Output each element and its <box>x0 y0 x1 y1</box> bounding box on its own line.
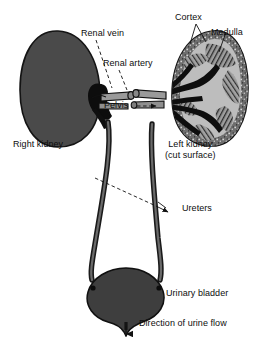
right-kidney <box>20 31 112 147</box>
label-left-kidney-line2: (cut surface) <box>165 150 216 160</box>
renal-vessels-left <box>131 90 166 109</box>
anatomy-illustration <box>0 0 261 337</box>
label-renal-artery: Renal artery <box>103 58 153 69</box>
label-left-kidney: Left kidney (cut surface) <box>165 139 216 160</box>
label-medulla: Medulla <box>211 27 243 38</box>
kidney-internal-structures <box>140 31 248 146</box>
label-cortex: Cortex <box>175 12 202 23</box>
urinary-system-diagram: Renal vein Renal artery Pelvis Cortex Me… <box>0 0 261 337</box>
ureter-left <box>151 124 161 280</box>
label-renal-vein: Renal vein <box>81 28 124 39</box>
left-kidney <box>140 31 248 146</box>
label-left-kidney-line1: Left kidney <box>168 139 212 149</box>
label-pelvis: Pelvis <box>104 100 128 111</box>
ureter-right <box>91 122 109 280</box>
label-urine-flow: Direction of urine flow <box>139 318 227 329</box>
label-ureters: Ureters <box>182 203 212 214</box>
label-right-kidney: Right kidney <box>13 139 63 150</box>
label-urinary-bladder: Urinary bladder <box>166 288 228 299</box>
